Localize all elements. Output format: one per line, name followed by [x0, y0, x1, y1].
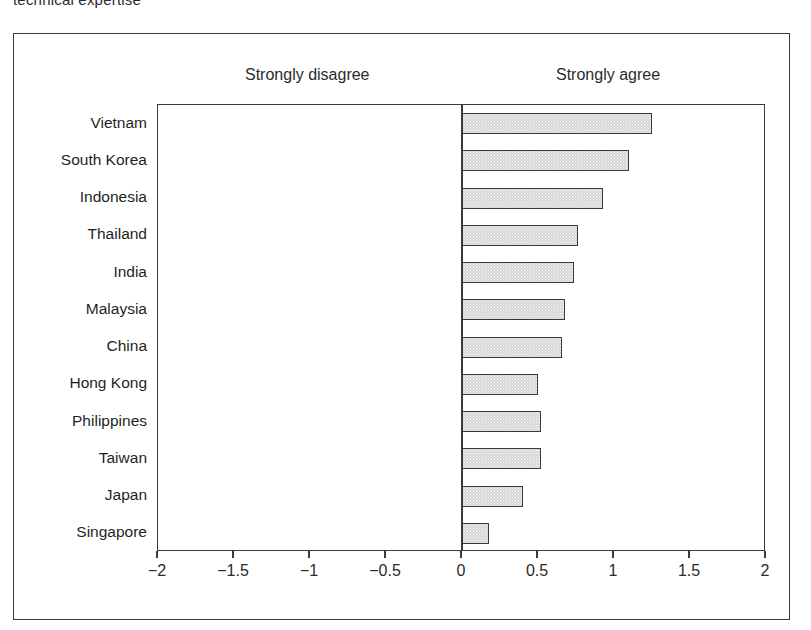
bar: [462, 299, 565, 320]
axis-tick-label: −1: [300, 562, 318, 580]
strongly-agree-label: Strongly agree: [556, 66, 660, 84]
axis-tick: [460, 551, 461, 558]
bar: [462, 337, 562, 358]
caption-fragment: technical expertise: [13, 0, 141, 8]
category-label: Philippines: [72, 413, 147, 429]
category-label: South Korea: [61, 152, 147, 168]
axis-tick: [536, 551, 537, 558]
category-label: Hong Kong: [69, 375, 147, 391]
category-label: Thailand: [88, 226, 147, 242]
axis-tick: [384, 551, 385, 558]
axis-tick: [156, 551, 157, 558]
axis-tick-label: 0: [457, 562, 466, 580]
bar: [462, 374, 538, 395]
category-label: Malaysia: [86, 301, 147, 317]
bar: [462, 523, 489, 544]
axis-tick-label: −1.5: [217, 562, 249, 580]
axis-tick: [232, 551, 233, 558]
category-label: Taiwan: [99, 450, 147, 466]
figure-frame: Strongly disagree Strongly agree Vietnam…: [13, 33, 790, 620]
scale-header: Strongly disagree Strongly agree: [14, 66, 791, 92]
axis-tick-label: −0.5: [369, 562, 401, 580]
category-label: Singapore: [76, 524, 147, 540]
bar: [462, 448, 541, 469]
plot-area: [157, 104, 765, 551]
axis-tick: [764, 551, 765, 558]
bar: [462, 225, 578, 246]
axis-tick-label: 0.5: [526, 562, 548, 580]
category-label: Indonesia: [80, 189, 147, 205]
axis-tick-label: −2: [148, 562, 166, 580]
category-axis-labels: VietnamSouth KoreaIndonesiaThailandIndia…: [14, 104, 147, 551]
bar: [462, 262, 574, 283]
axis-tick: [612, 551, 613, 558]
strongly-disagree-label: Strongly disagree: [245, 66, 370, 84]
axis-tick-label: 1: [609, 562, 618, 580]
zero-baseline: [461, 105, 463, 550]
bar: [462, 113, 652, 134]
axis-tick-label: 2: [761, 562, 770, 580]
bar: [462, 150, 629, 171]
category-label: China: [107, 338, 148, 354]
bar: [462, 486, 523, 507]
bar: [462, 411, 541, 432]
category-label: India: [113, 264, 147, 280]
category-label: Vietnam: [90, 115, 147, 131]
category-label: Japan: [105, 487, 147, 503]
value-axis: −2−1.5−1−0.500.511.52: [157, 551, 765, 597]
axis-tick: [308, 551, 309, 558]
bar: [462, 188, 603, 209]
axis-tick: [688, 551, 689, 558]
axis-tick-label: 1.5: [678, 562, 700, 580]
